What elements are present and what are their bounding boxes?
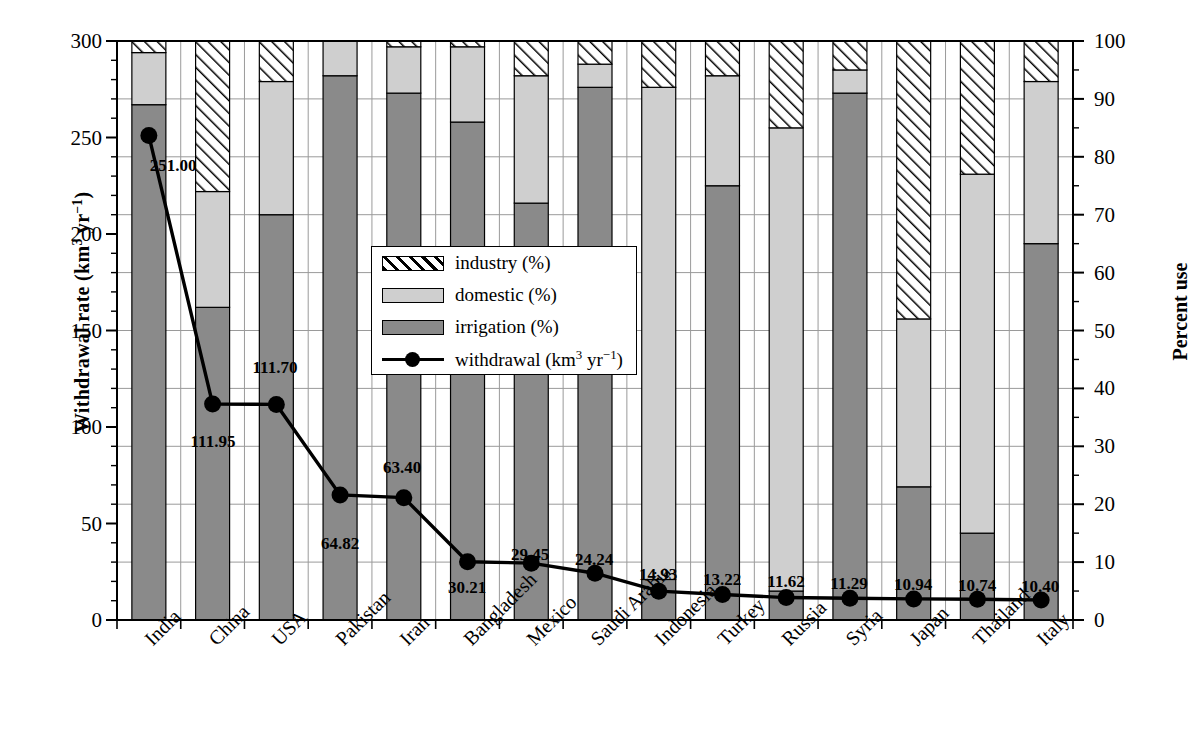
y-tick-right-100: 100 — [1094, 31, 1144, 52]
legend-swatch-irrigation-icon — [382, 320, 444, 335]
y-tick-left-50: 50 — [40, 513, 102, 534]
legend-sup-minus1: −1 — [603, 347, 617, 362]
y-tick-right-20: 20 — [1094, 494, 1144, 515]
legend-label-irrigation: irrigation (%) — [455, 316, 559, 338]
legend-label-withdrawal-end: ) — [617, 349, 623, 370]
bar-segment-industry — [897, 41, 931, 319]
y-tick-left-150: 150 — [40, 320, 102, 341]
bar-segment-domestic — [387, 47, 421, 93]
bar-segment-domestic — [642, 87, 676, 579]
bar-segment-domestic — [132, 53, 166, 105]
y-tick-right-0: 0 — [1094, 610, 1144, 631]
bar-segment-industry — [578, 41, 612, 64]
bar-segment-domestic — [1024, 82, 1058, 244]
withdrawal-marker — [140, 127, 157, 144]
y-tick-left-0: 0 — [40, 610, 102, 631]
bar-segment-irrigation — [1024, 244, 1058, 620]
legend-swatch-domestic-icon — [382, 288, 444, 303]
y-tick-left-250: 250 — [40, 127, 102, 148]
legend-swatch-withdrawal-icon — [382, 352, 444, 367]
legend-item-industry: industry (%) — [372, 247, 636, 279]
bar-segment-industry — [833, 41, 867, 70]
legend-swatch-industry-icon — [382, 256, 444, 271]
withdrawal-marker — [395, 489, 412, 506]
bar-segment-irrigation — [833, 93, 867, 620]
legend-item-withdrawal: withdrawal (km3 yr−1) — [372, 343, 636, 375]
legend-label-withdrawal-text: withdrawal (km — [455, 349, 576, 370]
withdrawal-marker — [204, 395, 221, 412]
bar-segment-industry — [642, 41, 676, 87]
bar-segment-industry — [960, 41, 994, 174]
bar-segment-domestic — [705, 76, 739, 186]
value-label-thailand: 10.74 — [958, 576, 996, 596]
legend-item-domestic: domestic (%) — [372, 279, 636, 311]
value-label-indonesia: 14.93 — [639, 565, 677, 585]
y-tick-left-300: 300 — [40, 31, 102, 52]
bar-segment-domestic — [259, 82, 293, 215]
bar-segment-industry — [1024, 41, 1058, 82]
y-tick-right-60: 60 — [1094, 262, 1144, 283]
legend-label-withdrawal: withdrawal (km3 yr−1) — [455, 347, 623, 371]
bar-segment-domestic — [514, 76, 548, 203]
legend-label-industry: industry (%) — [455, 252, 551, 274]
legend-label-domestic: domestic (%) — [455, 284, 557, 306]
y-tick-left-200: 200 — [40, 224, 102, 245]
y-tick-right-70: 70 — [1094, 204, 1144, 225]
chart-canvas: Withdrawal rate (km3 yr−1) Percent use 0… — [0, 0, 1196, 749]
bar-segment-irrigation — [705, 186, 739, 620]
bar-segment-domestic — [196, 192, 230, 308]
chart-legend: industry (%) domestic (%) irrigation (%)… — [371, 246, 637, 375]
value-label-italy: 10.40 — [1021, 577, 1059, 597]
value-label-japan: 10.94 — [894, 575, 932, 595]
value-label-saudi-arabia: 24.24 — [575, 550, 613, 570]
y-tick-right-30: 30 — [1094, 436, 1144, 457]
value-label-usa: 111.70 — [253, 358, 298, 378]
value-label-turkey: 13.22 — [703, 570, 741, 590]
y-tick-left-100: 100 — [40, 417, 102, 438]
withdrawal-marker — [332, 486, 349, 503]
value-label-syria: 11.29 — [830, 574, 867, 594]
bar-segment-irrigation — [259, 215, 293, 620]
y-tick-right-50: 50 — [1094, 320, 1144, 341]
bar-segment-domestic — [833, 70, 867, 93]
y-tick-right-90: 90 — [1094, 88, 1144, 109]
bar-segment-industry — [514, 41, 548, 76]
value-label-bangladesh: 30.21 — [448, 578, 486, 598]
y-tick-right-80: 80 — [1094, 146, 1144, 167]
bar-segment-industry — [259, 41, 293, 82]
bar-segment-domestic — [960, 174, 994, 533]
bar-segment-domestic — [897, 319, 931, 487]
legend-item-irrigation: irrigation (%) — [372, 311, 636, 343]
y-tick-right-10: 10 — [1094, 552, 1144, 573]
legend-label-withdrawal-mid: yr — [582, 349, 603, 370]
y-tick-right-40: 40 — [1094, 378, 1144, 399]
value-label-mexico: 29.45 — [511, 545, 549, 565]
bar-segment-domestic — [451, 47, 485, 122]
value-label-india: 251.00 — [150, 156, 197, 176]
bar-segment-domestic — [578, 64, 612, 87]
bar-segment-industry — [705, 41, 739, 76]
value-label-iran: 63.40 — [383, 458, 421, 478]
withdrawal-marker — [459, 553, 476, 570]
value-label-russia: 11.62 — [767, 572, 804, 592]
value-label-china: 111.95 — [191, 432, 236, 452]
bar-segment-industry — [769, 41, 803, 128]
withdrawal-marker — [268, 396, 285, 413]
bar-segment-domestic — [323, 41, 357, 76]
bar-segment-industry — [132, 41, 166, 53]
bar-segment-domestic — [769, 128, 803, 591]
value-label-pakistan: 64.82 — [321, 534, 359, 554]
bar-segment-industry — [196, 41, 230, 192]
